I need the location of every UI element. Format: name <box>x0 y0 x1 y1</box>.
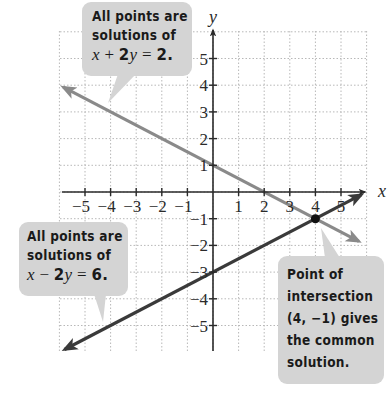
y-axis-label: y <box>207 7 217 27</box>
x-tick-label: 5 <box>337 197 346 216</box>
eq-op: = <box>72 265 91 284</box>
callout-text: All points are <box>27 227 128 246</box>
eq-op: = <box>137 45 156 64</box>
callout-text: (4, −1) gives <box>287 307 384 329</box>
eq-coef: 2 <box>54 266 65 284</box>
callout-text: solution. <box>287 351 384 373</box>
callout-text: the common <box>287 329 384 351</box>
x-tick-label: 4 <box>311 197 320 216</box>
x-tick-label: 2 <box>260 197 269 216</box>
x-tick-label: −5 <box>72 197 90 216</box>
eq-coef: 2 <box>119 46 130 64</box>
x-tick-label: −2 <box>149 197 167 216</box>
callout-text: All points are <box>92 7 192 26</box>
eq-var: x <box>92 45 100 64</box>
y-tick-label: 3 <box>200 103 209 122</box>
callout-line1-solutions: All points are solutions of x + 2y = 2. <box>82 2 192 76</box>
x-axis-label: x <box>377 181 386 201</box>
eq-var: x <box>27 265 35 284</box>
y-tick-label: 4 <box>200 76 209 95</box>
callout-text: solutions of <box>27 246 128 265</box>
eq-val: 2. <box>156 46 173 64</box>
equation-x-plus-2y-eq-2: x + 2y = 2. <box>92 45 192 65</box>
x-tick-label: −4 <box>98 197 117 216</box>
callout-line2-solutions: All points are solutions of x − 2y = 6. <box>19 222 128 296</box>
callout-text: intersection <box>287 285 384 307</box>
callout-pointer-right <box>321 228 340 258</box>
y-tick-label: 1 <box>200 156 209 175</box>
callout-text: solutions of <box>92 26 192 45</box>
y-tick-label: 5 <box>200 50 209 69</box>
y-tick-label: −4 <box>190 290 209 309</box>
equation-x-minus-2y-eq-6: x − 2y = 6. <box>27 265 128 285</box>
y-tick-label: −1 <box>190 210 208 229</box>
y-tick-label: 2 <box>200 130 209 149</box>
callout-pointer-left <box>94 294 106 322</box>
eq-val: 6. <box>91 266 108 284</box>
x-tick-label: −3 <box>123 197 141 216</box>
x-tick-label: 1 <box>234 197 243 216</box>
callout-pointer-top <box>108 74 136 103</box>
y-tick-label: −5 <box>190 317 208 336</box>
y-tick-label: −2 <box>190 236 208 255</box>
eq-op: + <box>100 45 119 64</box>
callout-text: Point of <box>287 263 384 285</box>
eq-op: − <box>35 265 54 284</box>
callout-intersection: Point of intersection (4, −1) gives the … <box>278 256 384 384</box>
y-tick-label: −3 <box>190 263 208 282</box>
x-tick-label: 3 <box>286 197 295 216</box>
